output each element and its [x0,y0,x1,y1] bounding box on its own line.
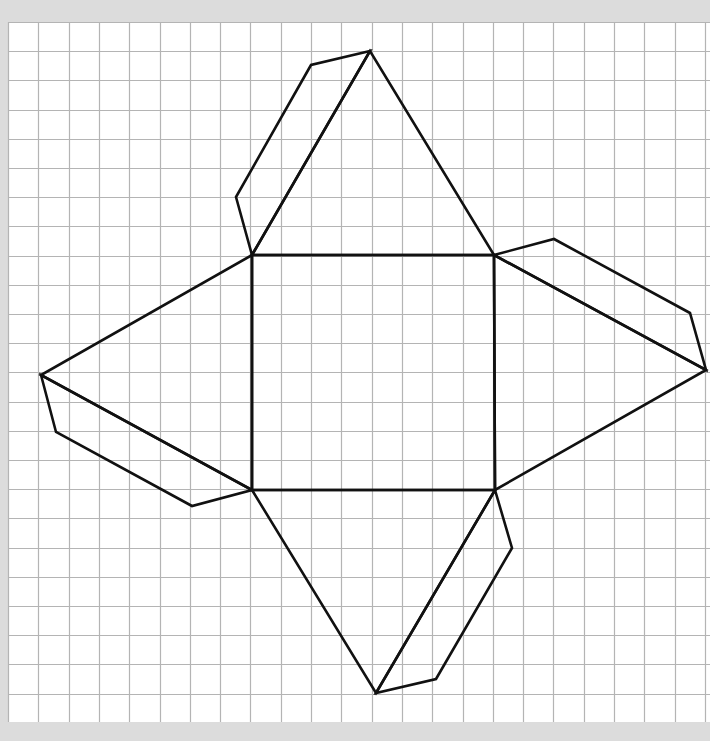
diagram-stage: Net of a square pyramid with glue flaps … [0,0,710,741]
pyramid-net-diagram [0,0,710,741]
